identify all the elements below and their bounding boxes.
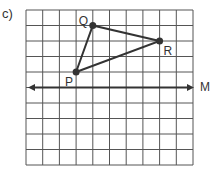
point-label-p: P [65, 76, 73, 88]
mirror-line-m [28, 84, 194, 91]
vertex-q [89, 22, 96, 29]
line-label-m: M [200, 81, 210, 93]
square-grid [0, 0, 218, 179]
vertex-r [156, 38, 163, 45]
triangle-pqr [73, 22, 164, 76]
point-label-r: R [164, 45, 173, 57]
reflection-diagram: c) P Q R M [0, 0, 218, 179]
point-label-q: Q [79, 15, 88, 27]
vertex-p [73, 69, 80, 76]
